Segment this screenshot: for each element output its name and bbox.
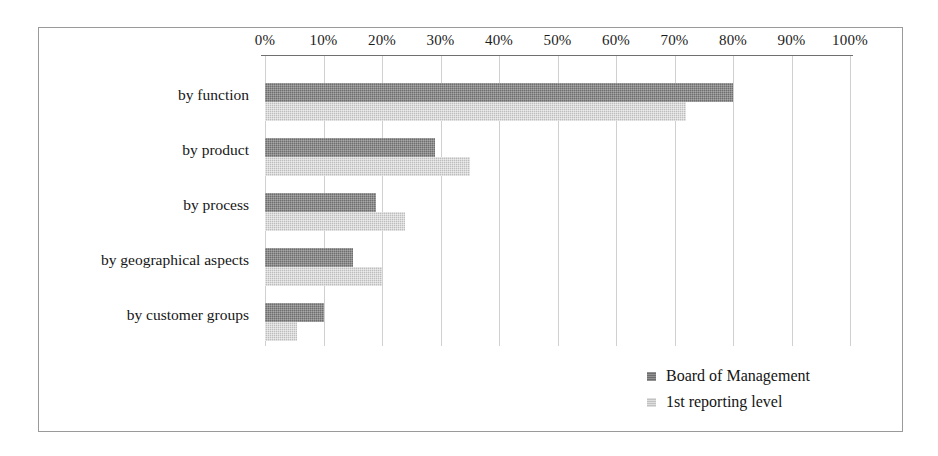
x-tick-label: 60%: [602, 32, 630, 49]
x-tick-label: 100%: [832, 32, 868, 49]
bar-first-reporting-level: [265, 212, 405, 231]
legend-item: 1st reporting level: [647, 389, 887, 415]
bar-group: [265, 138, 850, 176]
category-label: by product: [182, 141, 249, 159]
x-tick-label: 70%: [660, 32, 688, 49]
legend-label: 1st reporting level: [666, 393, 782, 411]
bar-first-reporting-level: [265, 157, 470, 176]
plot-area: [265, 56, 850, 346]
bar-group: [265, 193, 850, 231]
x-axis-tick-labels: 0%10%20%30%40%50%60%70%80%90%100%: [265, 28, 850, 54]
bar-group: [265, 303, 850, 341]
chart-legend: Board of Management1st reporting level: [647, 363, 887, 415]
category-label: by geographical aspects: [101, 251, 249, 269]
bar-group: [265, 248, 850, 286]
x-tick-label: 10%: [309, 32, 337, 49]
x-tick-label: 40%: [485, 32, 513, 49]
x-tick-label: 0%: [255, 32, 275, 49]
category-label: by process: [183, 196, 249, 214]
x-tick-label: 20%: [368, 32, 396, 49]
legend-swatch-icon: [647, 372, 656, 381]
bar-first-reporting-level: [265, 322, 297, 341]
chart-frame: 0%10%20%30%40%50%60%70%80%90%100% by fun…: [38, 27, 903, 432]
legend-item: Board of Management: [647, 363, 887, 389]
y-axis-category-labels: by functionby productby processby geogra…: [39, 56, 257, 346]
x-tick-label: 80%: [719, 32, 747, 49]
bar-first-reporting-level: [265, 102, 686, 121]
legend-swatch-icon: [647, 398, 656, 407]
bar-board-of-management: [265, 83, 733, 102]
bar-board-of-management: [265, 303, 324, 322]
x-tick-label: 30%: [426, 32, 454, 49]
bar-board-of-management: [265, 193, 376, 212]
legend-label: Board of Management: [666, 367, 810, 385]
category-label: by function: [178, 86, 249, 104]
x-tick-label: 50%: [543, 32, 571, 49]
gridline: [850, 56, 851, 346]
bar-board-of-management: [265, 138, 435, 157]
x-tick-label: 90%: [777, 32, 805, 49]
category-label: by customer groups: [127, 306, 249, 324]
bar-group: [265, 83, 850, 121]
bar-first-reporting-level: [265, 267, 382, 286]
bar-board-of-management: [265, 248, 353, 267]
